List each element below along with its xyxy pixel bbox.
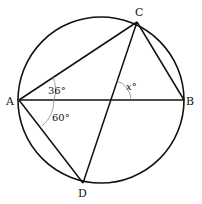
segment-cd: [83, 22, 137, 183]
segment-ac: [19, 22, 137, 100]
point-label-b: B: [186, 95, 194, 108]
segment-bc: [137, 22, 184, 100]
angle-label-x: x°: [126, 81, 137, 92]
point-label-a: A: [5, 95, 15, 108]
angle-label-60: 60°: [52, 112, 70, 123]
point-label-c: C: [135, 6, 143, 19]
point-label-d: D: [78, 187, 87, 200]
geometry-diagram: A B C D 36° 60° x°: [0, 0, 202, 204]
angle-label-36: 36°: [48, 85, 66, 96]
